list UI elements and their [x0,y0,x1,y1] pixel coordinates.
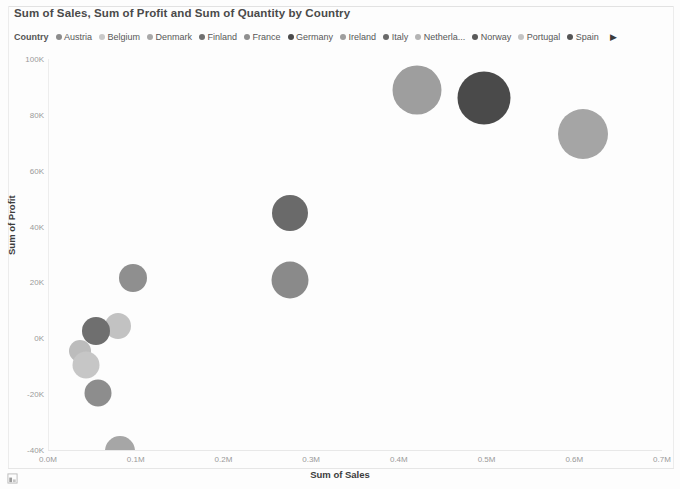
x-axis-tick-label: 0.0M [39,455,57,464]
x-axis-tick-label: 0.1M [127,455,145,464]
bubble-spain[interactable] [558,109,608,159]
bubble-germany[interactable] [457,72,510,125]
x-axis-tick-label: 0.3M [302,455,320,464]
x-axis-tick-label: 0.4M [390,455,408,464]
x-axis-title: Sum of Sales [0,469,680,480]
plot-wrapper: 100K80K60K40K20K0K-20K-40K 0.0M0.1M0.2M0… [0,0,680,489]
bubble-france[interactable] [119,264,147,292]
bubble-norway[interactable] [84,379,111,406]
x-axis-tick-label: 0.5M [478,455,496,464]
bubble-finland[interactable] [82,317,110,345]
x-axis-tick-label: 0.2M [215,455,233,464]
bubble-italy[interactable] [272,195,308,231]
bubble-chart-visual: Sum of Sales, Sum of Profit and Sum of Q… [0,0,680,489]
focus-mode-icon[interactable] [7,473,18,484]
x-axis-tick-label: 0.6M [565,455,583,464]
y-axis-title: Sum of Profit [6,195,17,255]
bubble-ireland[interactable] [393,65,442,114]
bubble-portugal[interactable] [105,436,135,450]
plot-area[interactable] [48,59,662,450]
bubble-austria[interactable] [72,351,99,378]
x-axis-tick-label: 0.7M [653,455,671,464]
bubble-netherlands[interactable] [272,261,309,298]
